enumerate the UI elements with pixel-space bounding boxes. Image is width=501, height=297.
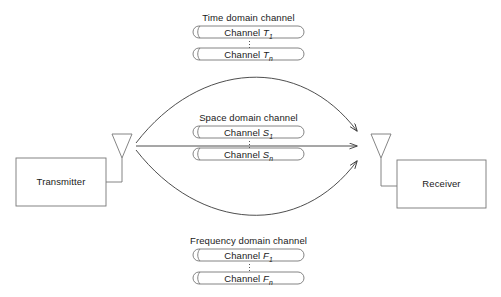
channel-word: Channel [224, 27, 260, 38]
channel-label: Channel S1 [193, 127, 304, 140]
time-domain-title: Time domain channel [183, 12, 314, 23]
channel-word: Channel [224, 127, 260, 138]
vertical-ellipsis [248, 139, 250, 148]
channel-index: 1 [269, 256, 273, 263]
channel-word: Channel [224, 149, 260, 160]
channel-index: n [269, 55, 273, 62]
vertical-ellipsis [248, 39, 250, 48]
antenna-icon [112, 134, 132, 158]
receiver-connector [381, 158, 397, 186]
channel-index: 1 [269, 133, 273, 140]
diagram-canvas: Transmitter Receiver Time domain channel… [0, 0, 501, 297]
receiver-label: Receiver [397, 178, 486, 189]
channel-index: n [269, 155, 273, 162]
transmitter-label: Transmitter [16, 176, 106, 187]
channel-word: Channel [224, 49, 260, 60]
channel-label: Channel Sn [193, 149, 304, 162]
space-domain-title: Space domain channel [183, 112, 314, 123]
channel-index: 1 [269, 33, 273, 40]
channel-label: Channel F1 [193, 250, 304, 263]
channel-label: Channel T1 [193, 27, 304, 40]
channel-label: Channel Fn [193, 273, 304, 286]
antenna-icon [371, 134, 391, 158]
channel-word: Channel [224, 273, 260, 284]
channel-label: Channel Tn [193, 49, 304, 62]
frequency-domain-title: Frequency domain channel [183, 235, 314, 246]
channel-index: n [269, 279, 273, 286]
channel-word: Channel [224, 250, 260, 261]
vertical-ellipsis [248, 262, 250, 271]
transmitter-connector [106, 158, 122, 182]
